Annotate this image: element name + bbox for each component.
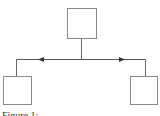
figure-caption: Figure 1: ... <box>2 110 160 116</box>
diagram-canvas <box>0 0 160 116</box>
arrow-right-icon <box>119 57 125 62</box>
node-top <box>68 9 97 39</box>
node-left <box>4 77 32 105</box>
node-right <box>131 77 158 105</box>
arrow-left-icon <box>38 57 44 62</box>
